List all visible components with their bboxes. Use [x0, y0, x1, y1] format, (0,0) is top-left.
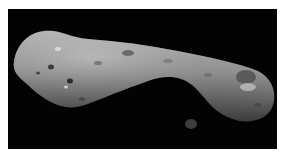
asteroid-illustration: [8, 9, 277, 149]
debris: [185, 119, 197, 129]
asteroid-photo: [8, 9, 277, 149]
